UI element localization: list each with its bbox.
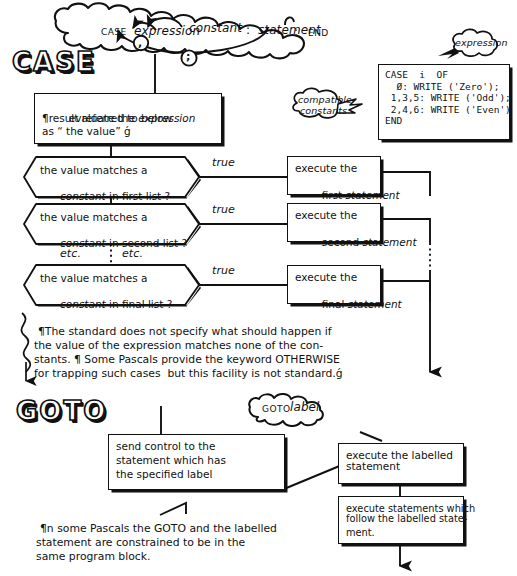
evaluate-expression-box: evaluate the expression ¶result referred… bbox=[34, 93, 222, 144]
case-heading: CASE bbox=[12, 47, 96, 77]
action-second-line2-emph: statement bbox=[363, 236, 417, 248]
cloud-token-constant: constant bbox=[189, 22, 242, 35]
action-second-line2-text: second bbox=[322, 236, 363, 248]
execute-labelled-line2: statement bbox=[346, 460, 400, 473]
cloud-token-case: CASE bbox=[101, 27, 127, 37]
diagram-text-layer: CASE expression constant : statement : E… bbox=[0, 0, 517, 576]
semicolon-loop-marker: ; bbox=[186, 51, 191, 63]
send-control-box: send control to the statement which has … bbox=[108, 434, 285, 490]
diagram-canvas: CASE expression constant : statement : E… bbox=[0, 0, 517, 576]
case-code-line-3: 1,3,5: WRITE ('Odd'); bbox=[385, 92, 503, 104]
decision-second-line2-rest: in second list ? bbox=[106, 237, 187, 249]
action-final-line2: final statement bbox=[295, 285, 402, 324]
case-standard-note-line3: stants. ¶ Some Pascals provide the keywo… bbox=[34, 353, 340, 367]
goto-cloud-token-goto: GOTO bbox=[262, 404, 290, 414]
case-code-line-5: END bbox=[385, 115, 503, 127]
action-final-line2-text: final bbox=[322, 298, 348, 310]
send-control-line1: send control to the bbox=[116, 440, 215, 453]
execute-following-statements-box: execute statements which follow the labe… bbox=[338, 496, 464, 544]
send-control-line2: statement which has bbox=[116, 454, 226, 467]
case-code-line-1: CASE i OF bbox=[385, 69, 503, 81]
cloud-token-end: END bbox=[308, 28, 329, 38]
action-second-line1: execute the bbox=[295, 209, 357, 222]
execute-following-line2: follow the labelled state- bbox=[346, 512, 467, 525]
send-control-line3: the specified label bbox=[116, 468, 212, 481]
etc-label-right: etc. bbox=[122, 248, 143, 260]
decision-first-line2-rest: in first list ? bbox=[106, 190, 170, 202]
comma-loop-marker: , bbox=[138, 37, 142, 49]
action-final-line2-emph: statement bbox=[348, 298, 402, 310]
case-standard-note-line2: the value of the expression matches none… bbox=[34, 339, 323, 353]
action-second-line2: second statement bbox=[295, 223, 417, 262]
action-first-line1: execute the bbox=[295, 162, 357, 175]
edge-label-true-second: true bbox=[212, 204, 235, 216]
action-first-statement-box: execute the first statement bbox=[287, 156, 381, 195]
goto-note-line2: statement are constrained to be in the bbox=[36, 536, 245, 550]
edge-label-true-final: true bbox=[212, 265, 235, 277]
decision-final-line2: constant in final list ? bbox=[40, 285, 172, 324]
case-code-line-2: Ø: WRITE ('Zero'); bbox=[385, 81, 503, 93]
evaluate-box-line3: as “ the value” ǵ bbox=[42, 125, 131, 138]
goto-heading: GOTO bbox=[16, 396, 107, 426]
decision-second-line1: the value matches a bbox=[40, 211, 148, 224]
action-final-line1: execute the bbox=[295, 271, 357, 284]
decision-final-line1: the value matches a bbox=[40, 272, 148, 285]
cloud-token-colon-2: : bbox=[294, 26, 298, 39]
compatible-constants-line2: constants bbox=[300, 106, 347, 117]
execute-following-line3: ment. bbox=[346, 526, 375, 539]
evaluate-box-line2: ¶result referred to below bbox=[42, 112, 172, 125]
execute-labelled-statement-box: execute the labelled statement bbox=[338, 443, 464, 484]
case-code-line-4: 2,4,6: WRITE ('Even') bbox=[385, 104, 503, 116]
action-first-line2-emph: statement bbox=[346, 189, 400, 201]
cloud-token-colon-1: : bbox=[246, 24, 250, 37]
decision-first-line2-emph: constant bbox=[60, 190, 106, 202]
decision-first-line1: the value matches a bbox=[40, 164, 148, 177]
goto-note-line1: ¶n some Pascals the GOTO and the labelle… bbox=[40, 522, 277, 536]
decision-final-line2-rest: in final list ? bbox=[106, 298, 173, 310]
goto-cloud-token-label: label bbox=[290, 401, 320, 414]
edge-label-true-first: true bbox=[212, 157, 235, 169]
goto-note-line3: same program block. bbox=[36, 550, 150, 564]
case-standard-note-line1: ¶The standard does not specify what shou… bbox=[38, 325, 332, 339]
action-final-statement-box: execute the final statement bbox=[287, 265, 381, 304]
expression-callout-label: expression bbox=[455, 38, 508, 49]
case-code-example-box: CASE i OF Ø: WRITE ('Zero'); 1,3,5: WRIT… bbox=[378, 64, 510, 140]
etc-label-left: etc. bbox=[60, 248, 81, 260]
action-second-statement-box: execute the second statement bbox=[287, 203, 381, 242]
action-first-line2-text: first bbox=[322, 189, 346, 201]
decision-final-line2-emph: constant bbox=[60, 298, 106, 310]
case-standard-note-line4: for trapping such cases but this facilit… bbox=[34, 367, 343, 381]
